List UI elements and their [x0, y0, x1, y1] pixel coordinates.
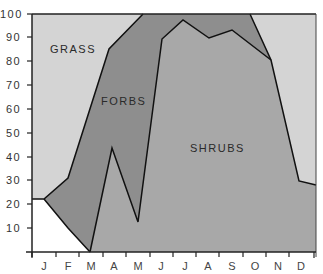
x-label-sep: S	[228, 260, 235, 272]
y-tick-label-100: 100	[0, 8, 23, 20]
shrubs-label: SHRUBS	[190, 142, 245, 154]
x-label-feb: F	[65, 260, 72, 272]
y-tick-label-20: 20	[6, 198, 21, 210]
y-tick-label-10: 10	[6, 222, 21, 234]
x-label-jun: J	[158, 260, 164, 272]
x-label-jul: J	[182, 260, 188, 272]
x-label-mar: M	[86, 260, 95, 272]
y-tick-label-60: 60	[6, 103, 21, 115]
y-tick-label-80: 80	[6, 55, 21, 67]
x-label-aug: A	[204, 260, 212, 272]
x-label-dec: D	[297, 260, 305, 272]
forbs-label: FORBS	[101, 95, 146, 107]
x-ticks	[32, 252, 314, 258]
x-label-apr: A	[110, 260, 118, 272]
x-label-nov: N	[274, 260, 282, 272]
y-tick-label-40: 40	[6, 151, 21, 163]
y-tick-label-70: 70	[6, 79, 21, 91]
y-tick-label-30: 30	[6, 174, 21, 186]
y-tick-label-90: 90	[6, 31, 21, 43]
x-label-oct: O	[251, 260, 260, 272]
x-label-may: M	[133, 260, 142, 272]
chart: 100 90 80 70 60 50 40 30 20 10 J F M A M…	[0, 0, 323, 274]
x-label-jan: J	[41, 260, 47, 272]
grass-label: GRASS	[50, 43, 96, 55]
y-tick-label-50: 50	[6, 127, 21, 139]
